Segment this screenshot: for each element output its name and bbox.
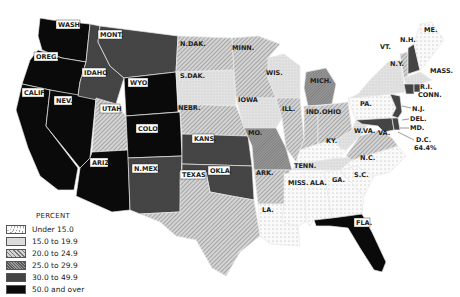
label-ga: GA. <box>332 176 345 184</box>
label-ariz: ARIZ. <box>92 159 112 167</box>
label-kans: KANS. <box>194 135 217 143</box>
legend-item: 50.0 and over <box>6 283 126 295</box>
label-md: MD. <box>410 124 424 132</box>
label-fla: FLA. <box>356 219 372 227</box>
legend-swatch <box>6 225 26 234</box>
label-ark: ARK. <box>256 169 274 177</box>
label-nmex: N.MEX. <box>134 165 160 173</box>
map-legend: PERCENT Under 15.0 15.0 to 19.9 20.0 to … <box>6 212 126 295</box>
state-conn <box>404 84 414 94</box>
label-nh: N.H. <box>400 36 416 44</box>
label-ill: ILL. <box>282 105 295 113</box>
label-del: DEL. <box>410 115 426 123</box>
label-wash: WASH. <box>58 21 83 29</box>
label-ny: N.Y. <box>390 60 404 68</box>
label-mo: MO. <box>248 129 262 137</box>
label-mich: MICH. <box>310 77 332 85</box>
label-calif: CALIF. <box>24 89 46 97</box>
label-ri: R.I. <box>420 83 432 91</box>
legend-swatch <box>6 285 26 294</box>
legend-label: 50.0 and over <box>32 285 84 294</box>
label-oreg: OREG. <box>36 53 59 61</box>
label-va: VA. <box>378 129 390 137</box>
label-nebr: NEBR. <box>178 104 200 112</box>
label-me: ME. <box>424 26 437 34</box>
label-wyo: WYO. <box>130 79 150 87</box>
label-nc: N.C. <box>360 154 375 162</box>
legend-label: Under 15.0 <box>32 225 74 234</box>
label-iowa: IOWA <box>238 96 258 104</box>
label-nj: N.J. <box>412 105 425 113</box>
label-la: LA. <box>262 206 274 214</box>
label-ky: KY. <box>326 137 337 145</box>
legend-title: PERCENT <box>36 212 126 220</box>
label-wva: W.VA. <box>354 127 375 135</box>
legend-label: 20.0 to 24.9 <box>32 249 78 258</box>
legend-label: 25.0 to 29.9 <box>32 261 78 270</box>
state-pa <box>348 94 396 120</box>
label-utah: UTAH <box>102 105 122 113</box>
label-minn: MINN. <box>232 44 254 52</box>
label-ohio: OHIO <box>322 108 341 116</box>
label-tenn: TENN. <box>294 162 316 170</box>
legend-item: 30.0 to 49.9 <box>6 271 126 283</box>
legend-item: 15.0 to 19.9 <box>6 235 126 247</box>
label-vt: VT. <box>380 43 391 51</box>
label-ind: IND. <box>306 108 322 116</box>
legend-label: 30.0 to 49.9 <box>32 273 78 282</box>
state-colo <box>126 112 182 158</box>
label-conn: CONN. <box>418 91 442 99</box>
label-dc: D.C. <box>416 136 431 144</box>
label-okla: OKLA. <box>210 167 232 175</box>
label-mass: MASS. <box>430 67 453 75</box>
legend-label: 15.0 to 19.9 <box>32 237 78 246</box>
legend-swatch <box>6 261 26 270</box>
state-fla <box>314 214 386 272</box>
label-texas: TEXAS <box>182 171 206 179</box>
label-ndak: N.DAK. <box>180 40 206 48</box>
label-dc-value: 64.4% <box>414 144 437 152</box>
legend-item: Under 15.0 <box>6 223 126 235</box>
legend-item: 25.0 to 29.9 <box>6 259 126 271</box>
legend-swatch <box>6 273 26 282</box>
label-miss: MISS. <box>288 179 308 187</box>
label-nev: NEV. <box>56 97 73 105</box>
legend-item: 20.0 to 24.9 <box>6 247 126 259</box>
label-pa: PA. <box>360 100 372 108</box>
legend-swatch <box>6 249 26 258</box>
state-mich <box>304 68 336 106</box>
legend-swatch <box>6 237 26 246</box>
label-sdak: S.DAK. <box>180 72 205 80</box>
label-ala: ALA. <box>310 179 327 187</box>
label-colo: COLO. <box>138 125 160 133</box>
label-sc: S.C. <box>354 171 368 179</box>
label-idaho: IDAHO <box>84 69 108 77</box>
label-wis: WIS. <box>266 69 283 77</box>
label-mont: MONT. <box>100 31 123 39</box>
